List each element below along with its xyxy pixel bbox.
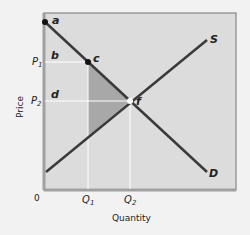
label-a: a xyxy=(52,14,59,27)
point-f-marker xyxy=(127,98,133,104)
q1-tick: Q1 xyxy=(82,194,94,207)
y-axis-title: Price xyxy=(15,96,25,118)
p2-tick: P2 xyxy=(31,95,42,108)
p1-tick: P1 xyxy=(32,56,43,69)
label-d: d xyxy=(51,88,59,101)
q2-tick: Q2 xyxy=(124,194,137,207)
supply-demand-diagram: a b c d f S D P1 P2 Q1 Q2 0 Quantity Pri… xyxy=(0,0,250,235)
point-a-marker xyxy=(42,19,48,25)
x-axis-title: Quantity xyxy=(112,213,152,223)
point-c-marker xyxy=(85,59,91,65)
label-b: b xyxy=(51,49,59,62)
supply-label: S xyxy=(210,33,218,46)
label-c: c xyxy=(93,52,100,65)
demand-label: D xyxy=(209,167,218,180)
origin-label: 0 xyxy=(34,193,40,203)
